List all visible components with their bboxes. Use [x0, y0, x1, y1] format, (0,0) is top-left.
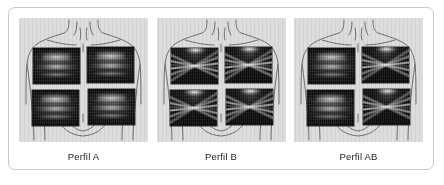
panel-perfil-ab[interactable]: Perfil AB: [294, 18, 423, 162]
thorax-photo-perfil-b: [157, 18, 286, 142]
ultrasound-zones-perfil-b: [157, 18, 286, 142]
thorax-photo-perfil-a: [19, 18, 148, 142]
us-zone-upper-left-profile-a[interactable]: [308, 48, 355, 84]
us-zone-upper-left-profile-a[interactable]: [33, 48, 80, 84]
panel-perfil-a[interactable]: Perfil A: [19, 18, 148, 162]
panels-row: Perfil A: [9, 8, 433, 169]
panel-label-perfil-b: Perfil B: [205, 152, 237, 162]
us-zone-upper-right-profile-b[interactable]: [225, 47, 272, 83]
us-zone-upper-right-profile-a[interactable]: [87, 47, 134, 83]
us-zone-lower-right-profile-a[interactable]: [88, 89, 135, 125]
us-zone-lower-right-profile-b[interactable]: [363, 89, 410, 125]
us-zone-lower-right-profile-b[interactable]: [226, 89, 273, 125]
us-zone-lower-left-profile-a[interactable]: [32, 90, 79, 126]
figure-root: Perfil A: [0, 0, 444, 185]
panel-label-perfil-ab: Perfil AB: [339, 152, 377, 162]
ultrasound-zones-perfil-ab: [294, 18, 423, 142]
panel-label-perfil-a: Perfil A: [68, 152, 100, 162]
us-zone-lower-left-profile-b[interactable]: [170, 90, 217, 126]
figure-frame: Perfil A: [8, 7, 434, 170]
us-zone-upper-right-profile-b[interactable]: [362, 47, 409, 83]
us-zone-upper-left-profile-b[interactable]: [171, 48, 218, 84]
ultrasound-zones-perfil-a: [19, 18, 148, 142]
thorax-photo-perfil-ab: [294, 18, 423, 142]
panel-perfil-b[interactable]: Perfil B: [157, 18, 286, 162]
us-zone-lower-left-profile-a[interactable]: [307, 90, 354, 126]
